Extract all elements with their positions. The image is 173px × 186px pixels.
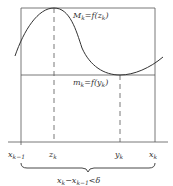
interval-brace [21,163,155,172]
brace-label: xk−xk−1<δ [57,176,101,186]
max-label: Mk=f(zk) [72,11,109,21]
axis-label-yk: yk [114,150,124,160]
axis-label-xk-1: xk−1 [8,150,25,160]
min-label: mk=f(yk) [73,78,108,88]
oscillation-diagram: Mk=f(zk) mk=f(yk) xk−1 zk yk xk xk−xk−1<… [0,0,173,186]
axis-label-xk: xk [149,150,158,160]
axis-label-zk: zk [48,150,57,160]
